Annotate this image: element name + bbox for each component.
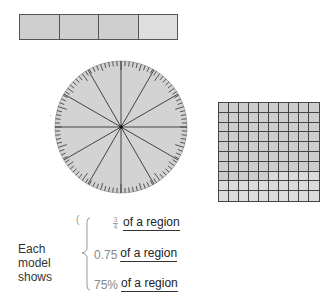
grid-cell bbox=[289, 181, 299, 191]
grid-cell bbox=[239, 103, 249, 113]
grid-cell bbox=[259, 113, 269, 123]
grid-cell bbox=[309, 132, 319, 142]
grid-cell bbox=[269, 181, 279, 191]
percent-value: 75% bbox=[94, 278, 118, 292]
grid-cell bbox=[219, 132, 229, 142]
grid-cell bbox=[229, 123, 239, 133]
grid-cell bbox=[219, 123, 229, 133]
grid-cell bbox=[309, 191, 319, 201]
grid-cell bbox=[229, 191, 239, 201]
circle-model bbox=[54, 60, 190, 196]
grid-cell bbox=[289, 162, 299, 172]
grid-cell bbox=[259, 152, 269, 162]
grid-cell bbox=[259, 103, 269, 113]
grid-cell bbox=[299, 162, 309, 172]
grid-cell bbox=[299, 113, 309, 123]
decimal-value: 0.75 bbox=[94, 248, 117, 262]
grid-cell bbox=[309, 162, 319, 172]
grid-cell bbox=[249, 162, 259, 172]
region-label: of a region bbox=[123, 216, 180, 231]
grid-cell bbox=[309, 142, 319, 152]
grid-cell bbox=[219, 113, 229, 123]
grid-cell bbox=[309, 103, 319, 113]
grid-cell bbox=[219, 103, 229, 113]
grid-cell bbox=[269, 103, 279, 113]
representation-fraction: 3 4 of a region bbox=[113, 216, 180, 231]
grid-cell bbox=[279, 152, 289, 162]
grid-cell bbox=[219, 142, 229, 152]
grid-cell bbox=[239, 152, 249, 162]
grid-cell bbox=[249, 123, 259, 133]
grid-cell bbox=[229, 181, 239, 191]
grid-cell bbox=[269, 162, 279, 172]
grid-cell bbox=[259, 132, 269, 142]
grid-cell bbox=[239, 191, 249, 201]
grid-cell bbox=[269, 191, 279, 201]
grid-cell bbox=[249, 181, 259, 191]
grid-cell bbox=[259, 181, 269, 191]
grid-cell bbox=[259, 123, 269, 133]
grid-cell bbox=[249, 103, 259, 113]
bar-segment bbox=[99, 15, 139, 39]
grid-cell bbox=[249, 132, 259, 142]
grid-cell bbox=[289, 191, 299, 201]
stray-mark: ( bbox=[76, 214, 79, 225]
grid-cell bbox=[299, 103, 309, 113]
grid-cell bbox=[219, 181, 229, 191]
grid-cell bbox=[289, 152, 299, 162]
grid-cell bbox=[249, 113, 259, 123]
grid-cell bbox=[309, 152, 319, 162]
grid-cell bbox=[269, 152, 279, 162]
grid-cell bbox=[239, 162, 249, 172]
grid-cell bbox=[299, 191, 309, 201]
grid-cell bbox=[279, 191, 289, 201]
grid-cell bbox=[269, 172, 279, 182]
grid-cell bbox=[229, 142, 239, 152]
bar-model bbox=[19, 14, 178, 40]
grid-cell bbox=[279, 172, 289, 182]
grid-cell bbox=[229, 113, 239, 123]
grid-cell bbox=[249, 152, 259, 162]
grid-cell bbox=[239, 142, 249, 152]
grid-cell bbox=[279, 142, 289, 152]
grid-cell bbox=[299, 142, 309, 152]
grid-cell bbox=[289, 132, 299, 142]
fraction-value: 3 4 bbox=[113, 217, 118, 230]
grid-cell bbox=[269, 142, 279, 152]
grid-cell bbox=[239, 113, 249, 123]
grid-cell bbox=[289, 172, 299, 182]
grid-cell bbox=[219, 162, 229, 172]
grid-cell bbox=[259, 172, 269, 182]
grid-cell bbox=[299, 152, 309, 162]
grid-cell bbox=[269, 123, 279, 133]
grid-cell bbox=[229, 152, 239, 162]
grid-cell bbox=[219, 172, 229, 182]
grid-cell bbox=[259, 142, 269, 152]
grid-cell bbox=[269, 113, 279, 123]
grid-cell bbox=[239, 123, 249, 133]
bar-segment bbox=[20, 15, 60, 39]
grid-cell bbox=[269, 132, 279, 142]
grid-cell bbox=[299, 181, 309, 191]
grid-cell bbox=[309, 172, 319, 182]
grid-cell bbox=[279, 113, 289, 123]
bar-segment bbox=[60, 15, 100, 39]
grid-cell bbox=[239, 181, 249, 191]
grid-model bbox=[218, 102, 320, 202]
fraction-denominator: 4 bbox=[114, 224, 118, 230]
grid-cell bbox=[289, 142, 299, 152]
grid-cell bbox=[229, 103, 239, 113]
grid-cell bbox=[249, 172, 259, 182]
bar-segment bbox=[139, 15, 178, 39]
grid-cell bbox=[299, 123, 309, 133]
grid-cell bbox=[309, 123, 319, 133]
grid-cell bbox=[259, 191, 269, 201]
brace-icon bbox=[76, 214, 92, 294]
stray-dot: ' bbox=[50, 113, 52, 122]
grid-cell bbox=[309, 113, 319, 123]
grid-cell bbox=[249, 142, 259, 152]
grid-cell bbox=[289, 123, 299, 133]
grid-cell bbox=[309, 181, 319, 191]
grid-cell bbox=[229, 172, 239, 182]
grid-cell bbox=[279, 123, 289, 133]
